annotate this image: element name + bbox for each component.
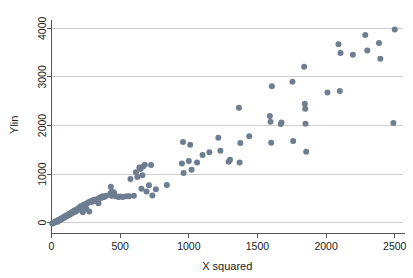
y-tick-label: 2000 [36,114,48,138]
x-axis-title: X squared [202,260,252,272]
data-point [186,158,192,164]
data-point [179,160,185,166]
data-point [376,40,382,46]
x-tick-label: 2000 [314,240,338,252]
data-point [153,186,159,192]
data-point [181,170,187,176]
data-point [303,121,309,127]
data-point [200,152,206,158]
data-point [390,120,396,126]
x-tick-label: 500 [111,240,129,252]
data-point [303,149,309,155]
data-point [206,149,212,155]
data-point [131,193,137,199]
data-points-group [49,27,397,227]
tickmarks-group [47,28,395,238]
y-tick-label: 1000 [36,162,48,186]
data-point [139,172,145,178]
data-point [302,106,308,112]
scatter-chart: 0100020003000400005001000150020002500 X … [0,0,413,278]
data-point [335,41,341,47]
data-point [246,133,252,139]
data-point [267,113,273,119]
data-point [189,167,195,173]
data-point [149,192,155,198]
data-point [362,32,368,38]
data-point [392,27,398,33]
x-tick-label: 1000 [177,240,201,252]
data-point [187,142,193,148]
y-tick-label: 4000 [36,16,48,40]
x-tick-label: 0 [49,240,55,252]
plot-svg: 0100020003000400005001000150020002500 X … [0,0,413,278]
x-tick-label: 1500 [246,240,270,252]
data-point [350,52,356,58]
y-tick-label: 0 [36,220,48,226]
y-axis-title: Ylin [8,116,20,134]
data-point [324,89,330,95]
data-point [278,120,284,126]
x-tick-label: 2500 [383,240,407,252]
data-point [95,200,101,206]
data-point [144,189,150,195]
data-point [215,135,221,141]
data-point [269,83,275,89]
data-point [338,50,344,56]
data-point [194,159,200,165]
data-point [227,157,233,163]
data-point [127,176,133,182]
data-point [134,174,140,180]
data-point [337,88,343,94]
data-point [268,119,274,125]
y-tick-label: 3000 [36,65,48,89]
data-point [268,140,274,146]
data-point [377,56,383,62]
data-point [364,47,370,53]
data-point [236,105,242,111]
data-point [290,138,296,144]
data-point [301,64,307,70]
data-point [289,79,295,85]
data-point [146,182,152,188]
data-point [148,162,154,168]
data-point [138,186,144,192]
data-point [86,208,92,214]
data-point [142,162,148,168]
data-point [180,139,186,145]
data-point [237,159,243,165]
data-point [164,182,170,188]
data-point [217,148,223,154]
data-point [237,140,243,146]
tick-labels-group: 0100020003000400005001000150020002500 [36,16,407,251]
